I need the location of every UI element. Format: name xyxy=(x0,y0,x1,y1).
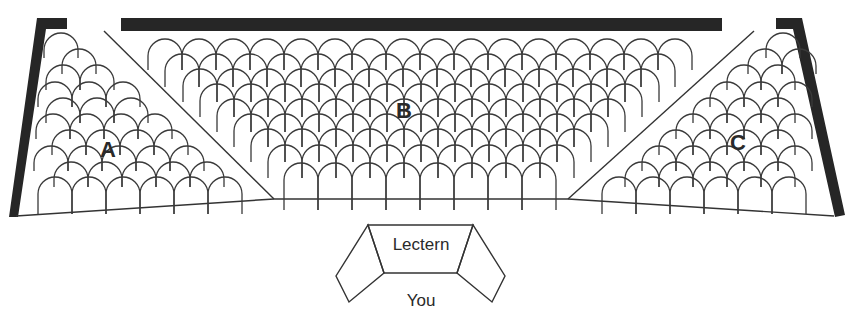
speaker-label: You xyxy=(407,291,436,310)
seat xyxy=(106,82,140,107)
seat xyxy=(104,114,138,139)
seat xyxy=(138,114,172,139)
lectern-left-wing xyxy=(336,225,384,302)
seat xyxy=(727,65,761,90)
section-label-c: C xyxy=(730,130,746,155)
section-a-seats xyxy=(34,33,242,214)
seat xyxy=(88,162,122,187)
section-b-seats xyxy=(148,39,692,210)
seat xyxy=(154,130,188,155)
seat xyxy=(761,65,795,90)
seat xyxy=(70,114,104,139)
seat xyxy=(602,177,636,214)
seat xyxy=(62,49,96,74)
seat xyxy=(190,162,224,187)
seat xyxy=(352,163,386,210)
seat xyxy=(54,162,88,187)
seat xyxy=(670,177,704,214)
seat xyxy=(420,163,454,210)
seat xyxy=(522,163,556,210)
seat xyxy=(174,177,208,214)
seat xyxy=(208,177,242,214)
front-edge xyxy=(16,199,834,216)
seat xyxy=(38,177,72,214)
seat xyxy=(140,177,174,214)
seat xyxy=(120,130,154,155)
seat xyxy=(72,177,106,214)
seat xyxy=(386,163,420,210)
seat xyxy=(34,146,68,171)
seat xyxy=(284,163,318,210)
seat xyxy=(52,130,86,155)
seat xyxy=(156,162,190,187)
seat xyxy=(170,146,204,171)
seat xyxy=(44,33,78,58)
seat xyxy=(318,163,352,210)
lectern-label: Lectern xyxy=(393,235,450,254)
lectern-right-wing xyxy=(457,225,505,302)
left-wall xyxy=(9,18,67,217)
seating-diagram: A B C Lectern You xyxy=(0,0,848,323)
seat xyxy=(72,82,106,107)
walls xyxy=(9,18,845,217)
seat xyxy=(636,177,670,214)
seat xyxy=(46,65,80,90)
seat xyxy=(454,163,488,210)
back-wall xyxy=(121,18,722,31)
seat xyxy=(488,163,522,210)
seat xyxy=(772,177,806,214)
seat xyxy=(36,114,70,139)
right-wall xyxy=(776,18,845,217)
section-label-a: A xyxy=(100,137,116,162)
seat xyxy=(80,65,114,90)
seat xyxy=(136,146,170,171)
section-c-seats xyxy=(602,33,816,214)
section-label-b: B xyxy=(396,98,412,123)
seat xyxy=(738,177,772,214)
seat xyxy=(122,162,156,187)
seat xyxy=(68,146,102,171)
seat xyxy=(38,82,72,107)
